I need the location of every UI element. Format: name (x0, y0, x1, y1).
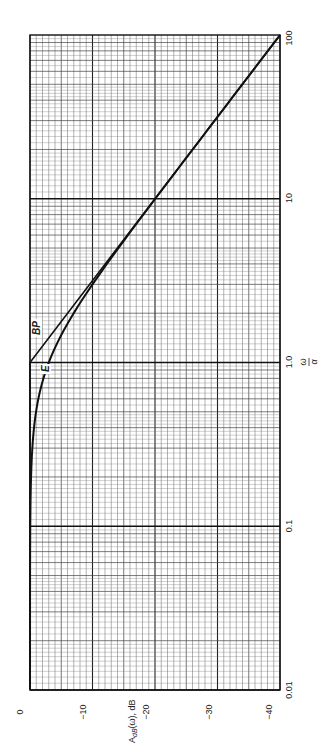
y-tick-label: −40 (264, 704, 274, 719)
y-tick-label: −20 (141, 704, 151, 719)
x-tick-label: 0.1 (284, 520, 294, 533)
y-tick-label: −30 (204, 704, 214, 719)
y-axis-label: AdB(ω), dB (127, 699, 138, 743)
e-label: E (40, 365, 51, 372)
bode-magnitude-chart: BP E 0 −10 −20 −30 −40 AdB(ω), dB 0.01 0… (0, 0, 332, 751)
bp-label: BP (31, 321, 42, 335)
svg-text:ω: ω (298, 358, 308, 365)
x-axis-ticks: 0.01 0.1 1.0 10 100 (284, 30, 294, 698)
x-tick-label: 100 (284, 30, 294, 45)
svg-text:AdB(ω), dB: AdB(ω), dB (127, 699, 138, 743)
x-tick-label: 0.01 (284, 681, 294, 699)
x-tick-label: 10 (284, 193, 294, 203)
chart-grid (30, 35, 280, 690)
x-axis-label: ω α (298, 358, 319, 366)
svg-text:α: α (309, 359, 319, 365)
y-tick-label: 0 (15, 709, 25, 714)
x-tick-label: 1.0 (284, 356, 294, 369)
y-tick-label: −10 (78, 704, 88, 719)
y-axis-ticks: 0 −10 −20 −30 −40 (15, 704, 274, 719)
